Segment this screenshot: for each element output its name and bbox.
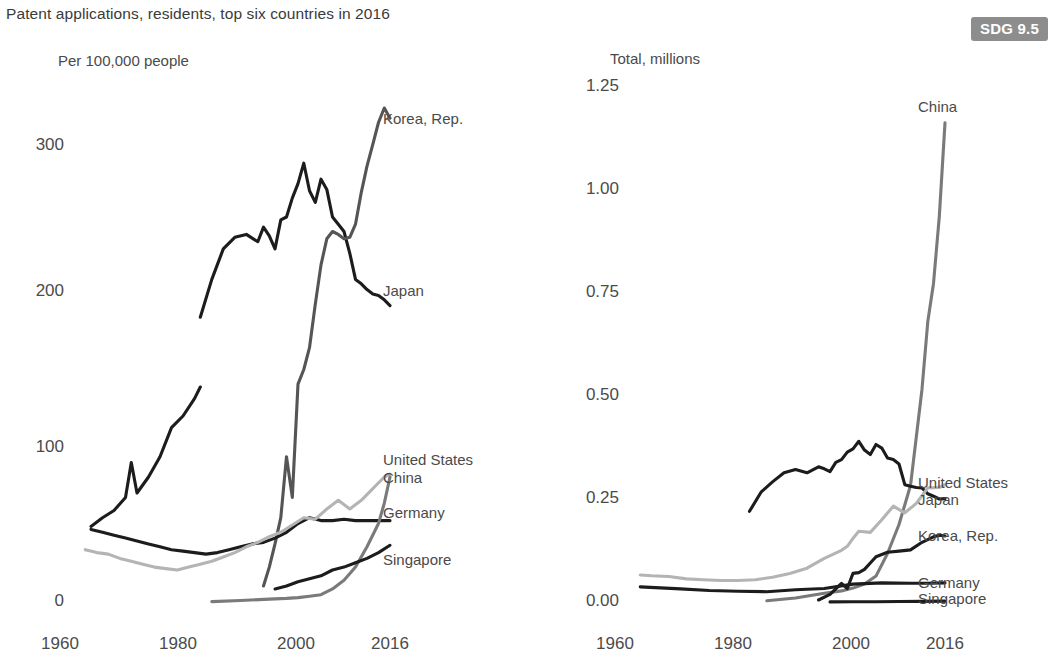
series-label-singapore-left: Singapore <box>383 552 451 567</box>
series-label-china-left: China <box>383 470 422 485</box>
series-line-singapore-6 <box>275 545 390 589</box>
chart-panel-right: Total, millions 1.25 1.00 0.75 0.50 0.25… <box>525 0 1050 672</box>
series-line-china-5 <box>212 477 390 602</box>
series-line-japan-0 <box>91 387 200 526</box>
series-label-china-right: China <box>918 99 957 114</box>
series-label-japan-right: Japan <box>918 492 959 507</box>
chart-panel-left: Per 100,000 people 300 200 100 0 1960 19… <box>0 0 525 672</box>
series-line-germany-4 <box>640 583 945 592</box>
series-label-germany-left: Germany <box>383 505 445 520</box>
series-line-united-states-2 <box>640 485 945 581</box>
series-label-united-states-right: United States <box>918 475 1008 490</box>
series-label-singapore-right: Singapore <box>918 591 986 606</box>
series-label-united-states-left: United States <box>383 452 473 467</box>
series-label-germany-right: Germany <box>918 575 980 590</box>
series-label-japan-left: Japan <box>383 283 424 298</box>
line-chart-right <box>525 0 1050 672</box>
series-line-korea-rep-2 <box>264 108 391 586</box>
series-line-united-states-4 <box>85 474 390 570</box>
series-label-korea-right: Korea, Rep. <box>918 528 998 543</box>
line-chart-left <box>0 0 525 672</box>
series-label-korea-left: Korea, Rep. <box>383 111 463 126</box>
